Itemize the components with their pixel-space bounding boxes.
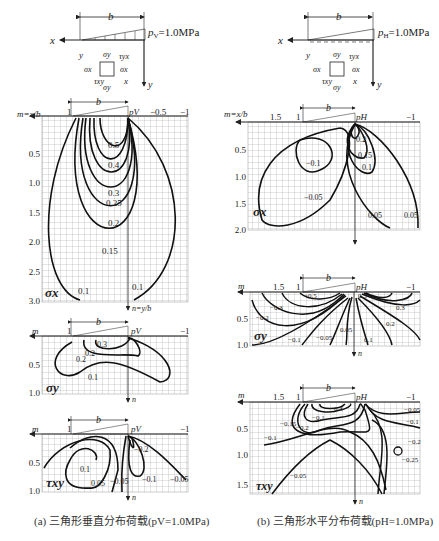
- svg-text:−0.15: −0.15: [280, 420, 297, 428]
- svg-text:0.5: 0.5: [358, 292, 367, 300]
- svg-text:1.5: 1.5: [273, 282, 285, 292]
- svg-text:σy: σy: [333, 50, 341, 59]
- svg-text:0.5: 0.5: [29, 360, 41, 370]
- svg-text:pH: pH: [355, 392, 368, 402]
- svg-text:−0.2: −0.2: [256, 314, 269, 322]
- svg-text:pH: pH: [355, 282, 368, 292]
- svg-text:n: n: [358, 349, 362, 358]
- svg-text:τxy: τxy: [256, 479, 273, 493]
- svg-text:0.2: 0.2: [356, 135, 366, 144]
- b-label: b: [108, 10, 114, 22]
- svg-text:0.05: 0.05: [91, 479, 105, 488]
- svg-text:−1: −1: [406, 112, 416, 122]
- svg-text:b: b: [96, 96, 101, 107]
- svg-text:1: 1: [67, 424, 72, 434]
- svg-text:−0.5: −0.5: [304, 292, 317, 300]
- svg-text:−0.2: −0.2: [408, 438, 421, 446]
- svg-text:0.5: 0.5: [29, 149, 41, 159]
- svg-text:−0.1: −0.1: [264, 434, 277, 442]
- svg-text:τyx: τyx: [349, 52, 359, 61]
- svg-text:−0.05: −0.05: [304, 193, 323, 202]
- svg-text:0.5: 0.5: [108, 140, 120, 150]
- svg-text:y: y: [376, 79, 382, 90]
- svg-text:0.05: 0.05: [368, 211, 382, 220]
- svg-text:1: 1: [67, 107, 72, 117]
- tau-xy-title: τxy: [46, 475, 64, 490]
- svg-text:0.15: 0.15: [102, 246, 118, 256]
- load-label-pv: pV=1.0MPa: [147, 26, 199, 40]
- svg-text:1.5: 1.5: [273, 392, 285, 402]
- svg-text:y: y: [305, 50, 310, 60]
- sigma-y-title: σy: [46, 380, 59, 395]
- svg-text:1.5: 1.5: [270, 112, 282, 122]
- svg-text:0.5: 0.5: [237, 424, 249, 434]
- svg-text:b: b: [96, 316, 101, 327]
- svg-text:b: b: [336, 10, 342, 22]
- svg-text:σy: σy: [333, 83, 341, 92]
- svg-text:m: m: [238, 281, 245, 291]
- load-schematic-b: b x pH=1.0MPa y y σy τyx σx σx τxy σy x: [277, 10, 429, 92]
- svg-text:1: 1: [296, 392, 301, 402]
- svg-text:2.0: 2.0: [29, 237, 41, 247]
- svg-text:1: 1: [296, 112, 301, 122]
- svg-text:−0.5: −0.5: [150, 107, 167, 117]
- svg-text:0.15: 0.15: [358, 151, 372, 160]
- svg-text:σx: σx: [352, 65, 360, 74]
- svg-text:b: b: [96, 414, 101, 425]
- svg-text:n: n: [359, 497, 363, 506]
- svg-text:0.1: 0.1: [80, 465, 90, 474]
- svg-text:b: b: [326, 102, 331, 113]
- svg-text:0.25: 0.25: [106, 198, 122, 208]
- caption-a: (a) 三角形垂直分布荷载(pV=1.0MPa): [34, 512, 209, 528]
- svg-text:σx: σx: [84, 65, 92, 74]
- svg-text:0.3: 0.3: [97, 340, 107, 349]
- svg-text:b: b: [326, 382, 331, 393]
- svg-text:0.1: 0.1: [362, 163, 372, 172]
- plot-b-sigma-x: b m=x/b 1.5 1 pH −1 0.5 1.0 1.5 2.0 −0.1…: [224, 102, 420, 244]
- svg-text:x: x: [352, 76, 357, 86]
- svg-text:−1: −1: [406, 392, 416, 402]
- svg-text:0.05: 0.05: [404, 211, 418, 220]
- svg-text:−0.3: −0.3: [330, 405, 343, 413]
- svg-text:−0.05: −0.05: [110, 477, 129, 486]
- svg-text:1.0: 1.0: [235, 172, 247, 182]
- svg-text:2.5: 2.5: [29, 267, 41, 277]
- svg-text:1.0: 1.0: [29, 486, 41, 496]
- svg-text:−0.3: −0.3: [270, 304, 283, 312]
- svg-text:x: x: [277, 34, 283, 46]
- svg-text:1.0: 1.0: [237, 450, 249, 460]
- svg-text:pV: pV: [130, 326, 143, 336]
- stress-contour-diagram: b x pV=1.0MPa y y σy τyx σx σx τxy σy x …: [0, 0, 439, 541]
- svg-text:−0.1: −0.1: [406, 418, 419, 426]
- svg-text:x: x: [49, 34, 55, 46]
- svg-text:0.3: 0.3: [108, 188, 120, 198]
- svg-text:n: n: [132, 395, 136, 404]
- svg-text:0.1: 0.1: [78, 286, 89, 296]
- plot-a-sigma-x: b m=x/b 1 pV −0.5 −1 0.5 1.0 1.5 2.0 2.5…: [17, 96, 190, 313]
- svg-text:m=x/b: m=x/b: [17, 109, 41, 119]
- svg-text:−0.1: −0.1: [142, 475, 157, 484]
- svg-text:0.2: 0.2: [76, 355, 86, 364]
- svg-text:m: m: [238, 390, 245, 400]
- svg-text:0.4: 0.4: [108, 160, 120, 170]
- svg-text:1.5: 1.5: [237, 480, 249, 490]
- svg-text:pH=1.0MPa: pH=1.0MPa: [377, 26, 429, 40]
- svg-text:−0.05: −0.05: [170, 475, 189, 484]
- svg-text:−0.25: −0.25: [402, 456, 419, 464]
- svg-text:n=y/b: n=y/b: [132, 304, 151, 313]
- svg-text:1: 1: [296, 282, 301, 292]
- svg-text:1.0: 1.0: [29, 178, 41, 188]
- svg-text:−1: −1: [180, 107, 190, 117]
- svg-text:1: 1: [67, 326, 72, 336]
- svg-text:−1: −1: [180, 424, 190, 434]
- svg-text:0.5: 0.5: [235, 145, 247, 155]
- svg-text:0.2: 0.2: [108, 218, 119, 228]
- svg-text:m: m: [32, 326, 39, 336]
- svg-text:0.1: 0.1: [88, 373, 98, 382]
- svg-text:m: m: [32, 424, 39, 434]
- svg-text:0.3: 0.3: [396, 304, 405, 312]
- svg-text:n: n: [132, 493, 136, 502]
- svg-text:τyx: τyx: [119, 52, 129, 61]
- svg-text:2.0: 2.0: [235, 225, 247, 235]
- svg-text:0.1: 0.1: [364, 336, 373, 344]
